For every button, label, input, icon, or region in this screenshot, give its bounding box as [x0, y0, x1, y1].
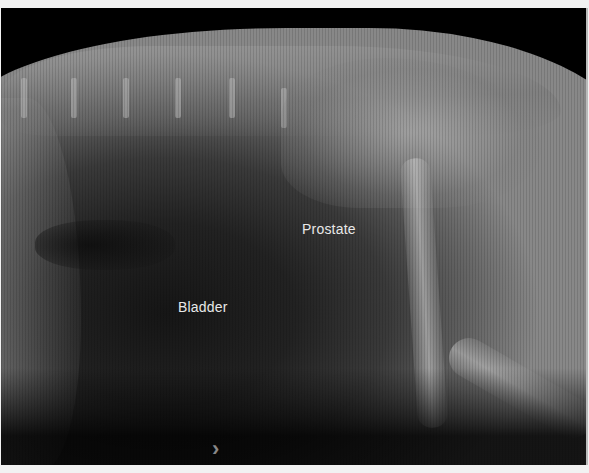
scanline-texture	[1, 8, 586, 465]
label-prostate: Prostate	[302, 221, 356, 237]
label-bladder: Bladder	[178, 299, 228, 315]
radiograph-image: Prostate Bladder	[1, 8, 588, 465]
chevron-right-icon[interactable]: ›	[212, 438, 230, 460]
